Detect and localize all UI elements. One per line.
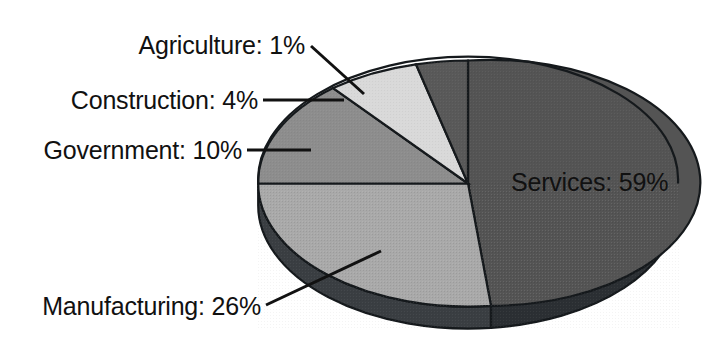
pie-chart-figure: Agriculture: 1% Construction: 4% Governm… (0, 0, 713, 352)
label-construction: Construction: 4% (71, 86, 258, 114)
label-government: Government: 10% (44, 136, 243, 164)
pie-chart-svg: Agriculture: 1% Construction: 4% Governm… (0, 0, 713, 352)
label-services: Services: 59% (511, 168, 668, 196)
label-manufacturing: Manufacturing: 26% (42, 292, 261, 320)
label-agriculture: Agriculture: 1% (138, 31, 305, 59)
